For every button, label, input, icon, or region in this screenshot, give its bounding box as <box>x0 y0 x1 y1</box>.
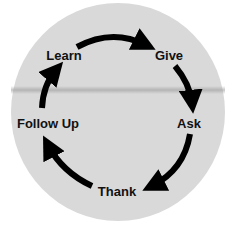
node-thank: Thank <box>98 185 136 198</box>
node-follow-up: Follow Up <box>17 117 79 130</box>
node-learn: Learn <box>46 49 81 62</box>
arrow-ask-to-thank <box>152 134 190 186</box>
arrow-thank-to-followup <box>48 145 92 186</box>
node-ask: Ask <box>177 117 201 130</box>
cycle-diagram: Learn Give Ask Thank Follow Up <box>0 0 229 229</box>
node-give: Give <box>155 49 183 62</box>
arrow-learn-to-give <box>77 37 146 47</box>
arrow-followup-to-learn <box>42 70 56 108</box>
arrow-give-to-ask <box>175 66 192 103</box>
